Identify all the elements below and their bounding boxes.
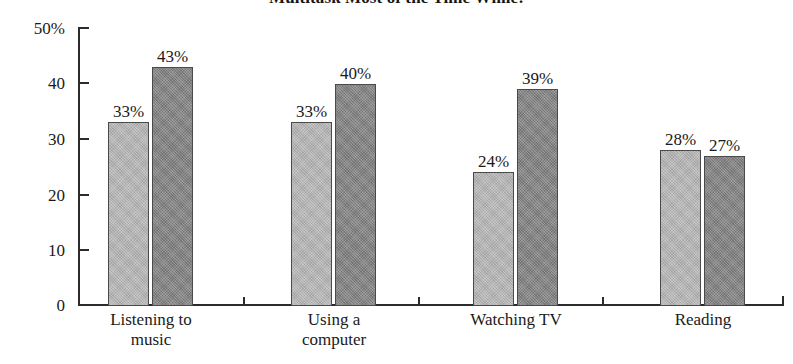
category-label-reading: Reading [643,310,763,330]
y-label-0: 0 [57,297,66,314]
x-axis-right-cap [782,296,784,306]
y-axis-line [78,27,80,306]
bar-value-listening-to-music-dark: 43% [147,48,198,65]
y-tick-20 [78,194,89,196]
bar-using-a-computer-light [291,122,332,306]
bar-value-listening-to-music-light: 33% [103,103,154,120]
bar-reading-dark [704,156,745,306]
y-label-30: 30 [48,131,65,148]
group-separator-tick-2 [418,297,420,306]
bar-value-using-a-computer-light: 33% [286,103,337,120]
bar-value-reading-dark: 27% [699,137,750,154]
group-separator-tick-3 [602,297,604,306]
bar-chart: Multitask Most of the Time While: 50% 40… [0,0,793,364]
category-label-listening-to-music: Listening to music [91,310,211,350]
bar-listening-to-music-dark [152,67,193,306]
bar-reading-light [660,150,701,306]
y-tick-10 [78,249,89,251]
category-label-using-a-computer: Using a computer [274,310,394,350]
y-label-10: 10 [48,242,65,259]
bar-listening-to-music-light [108,122,149,306]
chart-title: Multitask Most of the Time While: [0,0,793,8]
bar-value-using-a-computer-dark: 40% [330,65,381,82]
category-label-watching-tv: Watching TV [456,310,576,330]
y-tick-30 [78,138,89,140]
bar-using-a-computer-dark [335,84,376,306]
bar-watching-tv-light [473,172,514,306]
bar-value-watching-tv-light: 24% [468,153,519,170]
y-label-50: 50% [34,20,65,37]
bar-watching-tv-dark [517,89,558,306]
y-tick-50 [78,27,89,29]
y-label-40: 40 [48,75,65,92]
y-tick-40 [78,82,89,84]
bar-value-watching-tv-dark: 39% [512,70,563,87]
y-label-20: 20 [48,187,65,204]
group-separator-tick-1 [243,297,245,306]
